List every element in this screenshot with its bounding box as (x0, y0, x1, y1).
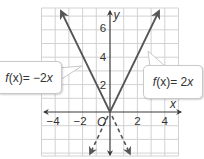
y-axis-label: y (113, 8, 121, 22)
callout-f-2x: f(x) = 2x (143, 65, 203, 99)
x-tick-label: 2 (134, 115, 140, 127)
function-arg: (x) (9, 71, 23, 85)
x-axis-label: x (169, 97, 177, 111)
function-var: x (47, 71, 53, 85)
origin-label: O (97, 115, 106, 129)
function-eq: = −2 (23, 71, 47, 85)
x-tick-label: −2 (73, 115, 86, 127)
callout-f-neg2x: f(x) = −2x (0, 61, 62, 94)
dashed-extension-f-neg2x (112, 116, 130, 154)
function-eq: = 2 (170, 75, 187, 89)
function-arg: (x) (156, 75, 170, 89)
x-tick-label: −4 (46, 115, 60, 127)
x-tick-label: 4 (162, 115, 169, 127)
y-tick-label: 4 (100, 51, 107, 63)
y-tick-label: 6 (100, 22, 106, 34)
y-tick-label: 2 (100, 79, 106, 91)
function-var: x (187, 75, 193, 89)
